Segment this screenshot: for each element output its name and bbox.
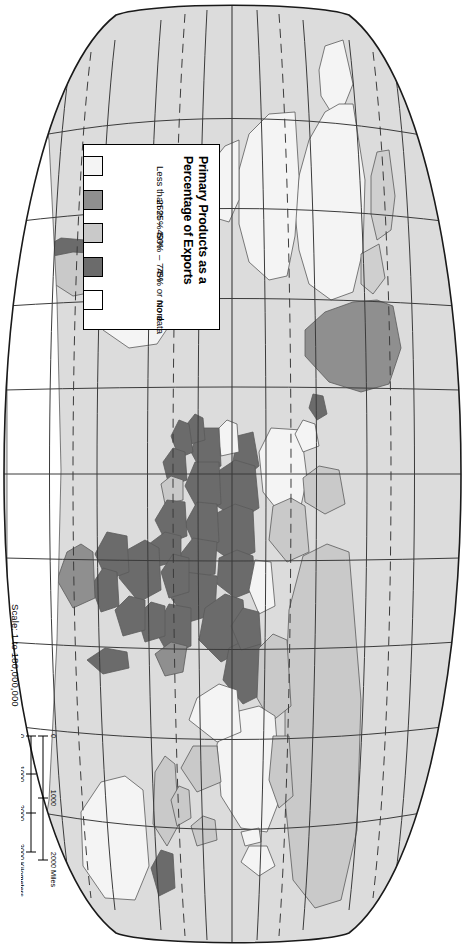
km-label-2000: 2000 (21, 805, 26, 821)
legend-item-list: Less than 25% 25% – 49% 50% – 74% (83, 156, 171, 319)
legend-swatch-75-or-more (83, 257, 103, 277)
map-canvas[interactable] (0, 0, 465, 949)
map-scale-block: Scale: 1 to 180,000,000 (5, 604, 57, 904)
km-label-0: 0 (21, 734, 26, 738)
legend-title-line-1: Primary Products as a (196, 156, 210, 284)
map-legend[interactable]: Primary Products as a Percentage of Expo… (83, 144, 220, 330)
legend-swatch-no-data (83, 290, 103, 310)
region-united-states (239, 112, 299, 280)
miles-unit: Miles (49, 870, 57, 888)
km-label-1000: 1000 (21, 766, 26, 782)
region-new-zealand (67, 912, 99, 940)
miles-label-2000: 2000 (49, 852, 57, 868)
map-figure-stage: Primary Products as a Percentage of Expo… (0, 0, 465, 949)
scale-bar-labels: 0 1000 2000 Miles 0 1000 2000 3000 Kilom… (21, 734, 57, 897)
miles-label-0: 0 (49, 734, 57, 738)
km-label-3000: 3000 (21, 844, 26, 860)
legend-swatch-50-to-74 (83, 223, 103, 243)
region-russia (285, 544, 361, 908)
scale-bar-rules (26, 736, 48, 860)
map-svg[interactable] (0, 0, 465, 949)
legend-title: Primary Products as a Percentage of Expo… (180, 156, 210, 319)
legend-item-less-than-25[interactable]: Less than 25% (83, 156, 171, 185)
world-map-figure: Primary Products as a Percentage of Expo… (0, 0, 465, 949)
legend-swatch-less-than-25 (83, 156, 103, 176)
miles-label-1000: 1000 (49, 790, 57, 806)
scale-ratio-text: Scale: 1 to 180,000,000 (10, 604, 21, 707)
legend-title-line-2: Percentage of Exports (181, 156, 195, 284)
legend-label-track: Less than 25% (109, 156, 171, 157)
legend-item-label: No data (155, 300, 166, 334)
km-unit: Kilometers (21, 862, 26, 897)
scale-bar-svg: 0 1000 2000 Miles 0 1000 2000 3000 Kilom… (21, 730, 57, 906)
scale-bar-graphic: 0 1000 2000 Miles 0 1000 2000 3000 Kilom… (21, 730, 57, 906)
legend-swatch-25-to-49 (83, 190, 103, 210)
